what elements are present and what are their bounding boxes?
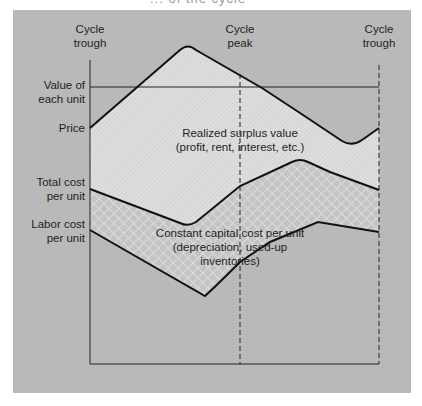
label-total-cost: Total cost per unit [0,175,85,203]
label-surplus-region: Realized surplus value (profit, rent, in… [150,126,330,154]
header-cycle-trough-left: Cycle trough [50,22,130,50]
header-cycle-peak: Cycle peak [200,22,280,50]
label-price: Price [0,121,85,135]
header-cycle-trough-right: Cycle trough [339,22,419,50]
label-constant-capital-region: Constant capital cost per unit (deprecia… [130,226,330,268]
label-labor-cost: Labor cost per unit [0,217,85,245]
label-value-of-each-unit: Value of each unit [0,78,85,106]
cycle-diagram [0,0,422,406]
